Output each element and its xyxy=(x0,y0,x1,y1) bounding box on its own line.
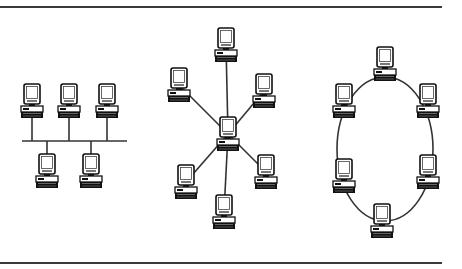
bus-computer-icon xyxy=(80,154,102,188)
bus-computer-icon xyxy=(36,154,58,188)
star-computer-icon xyxy=(213,195,235,229)
ring-computer-icon xyxy=(374,47,396,81)
bus-computer-icon xyxy=(58,84,80,118)
star-computer-icon xyxy=(168,68,190,102)
star-computer-icon xyxy=(253,74,275,108)
bus-computer-icon xyxy=(21,84,43,118)
ring-computer-icon xyxy=(371,204,393,238)
star-computer-icon xyxy=(215,28,237,62)
star-computer-icon xyxy=(255,155,277,189)
star-hub-computer-icon xyxy=(217,117,239,151)
bus-computer-icon xyxy=(96,84,118,118)
ring-computer-icon xyxy=(417,155,439,189)
network-topologies-diagram xyxy=(0,0,462,269)
computer-nodes xyxy=(21,28,439,238)
star-computer-icon xyxy=(175,165,197,199)
ring-computer-icon xyxy=(417,84,439,118)
ring-computer-icon xyxy=(333,84,355,118)
ring-computer-icon xyxy=(333,159,355,193)
